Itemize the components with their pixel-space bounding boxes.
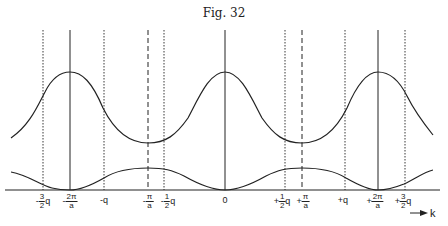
tick-label-plus-q: +q bbox=[338, 196, 348, 205]
lower-band-curve bbox=[11, 168, 433, 190]
tick-label-minus-2pi-a: -2πa bbox=[63, 193, 78, 210]
tick-label-plus-1-2-q: +12q bbox=[274, 193, 291, 210]
tick-label-zero: 0 bbox=[222, 196, 227, 205]
tick-label-minus-pi-a: -πa bbox=[143, 193, 154, 210]
arrow-right-icon bbox=[420, 210, 428, 216]
tick-label-minus-3-2-q: -32q bbox=[36, 193, 50, 210]
tick-label-plus-3-2-q: +32q bbox=[395, 193, 412, 210]
tick-label-minus-q: -q bbox=[100, 196, 108, 205]
tick-label-plus-2pi-a: +2πa bbox=[366, 193, 383, 210]
tick-label-minus-1-2-q: -12q bbox=[161, 193, 175, 210]
tick-label-plus-pi-a: +πa bbox=[297, 193, 310, 210]
upper-band-curve bbox=[11, 72, 433, 143]
k-axis-label: k bbox=[430, 207, 436, 219]
